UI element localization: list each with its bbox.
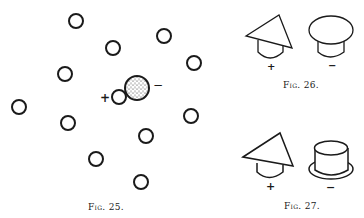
cone-cap-left	[243, 133, 293, 166]
fig27-caption: Fig. 27.	[284, 201, 320, 211]
atom-circle	[58, 67, 72, 81]
atom-circle	[89, 152, 103, 166]
fig26-caption: Fig. 26.	[283, 80, 319, 90]
atom-circle	[139, 129, 153, 143]
atom-circle	[106, 41, 120, 55]
mushroom-cap-right	[309, 16, 353, 44]
atom-circle	[12, 100, 26, 114]
small-charged-circle	[112, 90, 126, 104]
atom-circle	[61, 116, 75, 130]
fig27-diagram	[243, 133, 353, 179]
cone-stem-left	[257, 163, 283, 178]
atom-circle	[184, 109, 198, 123]
hat-top-right	[315, 141, 348, 155]
figures-canvas	[0, 0, 364, 218]
large-stippled-circle	[125, 76, 149, 100]
fig25-minus-sign: −	[153, 78, 163, 92]
atom-circle	[157, 29, 171, 43]
atom-circle	[134, 175, 148, 189]
fig26-diagram	[246, 15, 353, 58]
fig25-plus-sign: +	[100, 91, 110, 105]
fig27-minus-sign: −	[326, 181, 336, 194]
fig25-caption: Fig. 25.	[88, 202, 124, 212]
fig26-plus-sign: +	[267, 61, 276, 72]
fig26-minus-sign: −	[328, 60, 337, 71]
atom-circle	[187, 56, 201, 70]
fig27-plus-sign: +	[266, 180, 276, 193]
atom-circle	[69, 14, 83, 28]
